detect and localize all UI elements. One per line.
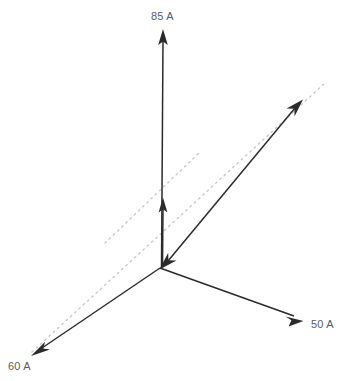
vector-resultant-arrow	[160, 100, 304, 270]
vector-diagram-svg	[0, 0, 350, 381]
vector-diagram-canvas: 85 A 50 A 60 A	[0, 0, 350, 381]
vector-label-60a: 60 A	[8, 360, 31, 373]
vector-50a-arrowhead	[286, 317, 304, 327]
vector-component-partial-shaft	[163, 208, 164, 266]
vector-label-50a: 50 A	[311, 318, 334, 331]
vector-resultant-arrowhead-tip	[287, 100, 304, 117]
vector-label-85a: 85 A	[151, 10, 174, 23]
dotted-line-short-construction	[105, 151, 201, 243]
vector-50a-shaft	[160, 268, 294, 316]
vector-50a-arrow	[160, 268, 304, 327]
vector-resultant-shaft	[168, 108, 295, 261]
vector-component-partial-arrow	[159, 198, 168, 267]
vector-60a-shaft	[42, 268, 160, 348]
vector-60a-arrow	[31, 268, 160, 356]
